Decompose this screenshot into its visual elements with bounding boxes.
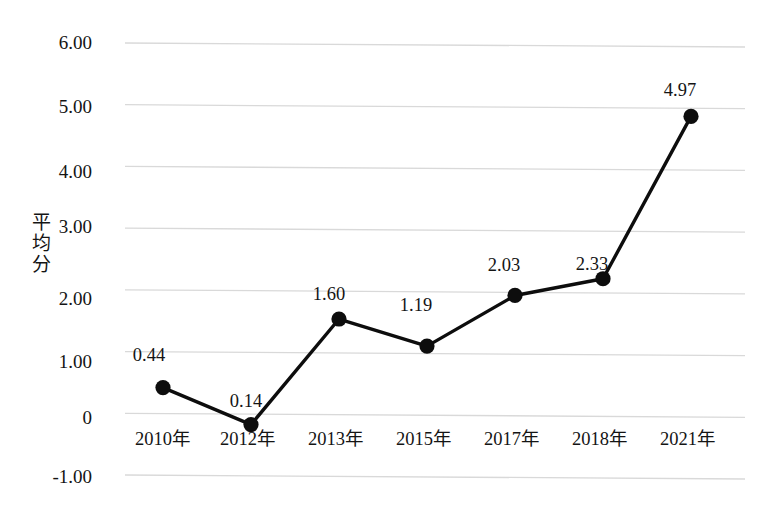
data-label: 4.97 — [640, 80, 720, 101]
gridline — [125, 166, 745, 170]
data-label: 0.44 — [109, 345, 189, 366]
data-point — [507, 288, 522, 303]
gridline — [125, 290, 745, 294]
gridline — [125, 105, 745, 109]
gridline — [125, 228, 745, 232]
figure-caption — [128, 506, 688, 517]
data-label: 2.33 — [552, 254, 632, 275]
data-point — [683, 109, 698, 124]
data-point — [155, 380, 170, 395]
data-point — [419, 339, 434, 354]
data-label: 1.60 — [289, 284, 369, 305]
data-label: 0.14 — [206, 391, 286, 412]
gridline — [125, 413, 745, 417]
gridline — [125, 352, 745, 356]
chart-figure: 平均分 6.00 5.00 4.00 3.00 2.00 1.00 0 -1.0… — [0, 0, 784, 517]
data-point — [331, 311, 346, 326]
data-label: 1.19 — [376, 295, 456, 316]
data-label: 2.03 — [464, 255, 544, 276]
gridlines — [125, 43, 745, 479]
gridline — [125, 43, 745, 47]
x-tick-label: 2021年 — [633, 424, 743, 450]
gridline — [125, 475, 745, 479]
